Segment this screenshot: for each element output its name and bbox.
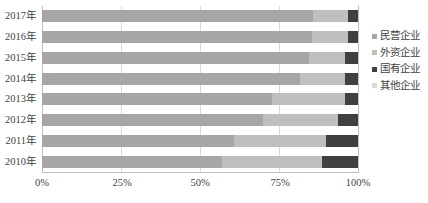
bar-segment[interactable] — [234, 135, 326, 147]
bar-row[interactable]: 2010年 — [42, 156, 358, 168]
bar-segment[interactable] — [42, 114, 263, 126]
bar-segment[interactable] — [263, 114, 338, 126]
bar-row[interactable]: 2012年 — [42, 114, 358, 126]
bar-segment[interactable] — [272, 93, 345, 105]
bar-segment[interactable] — [42, 10, 313, 22]
x-tick-label-0: 0% — [20, 176, 64, 189]
bar-segment[interactable] — [345, 52, 358, 64]
bar-segment[interactable] — [222, 156, 322, 168]
y-tick-label: 2016年 — [0, 31, 36, 43]
legend-swatch-icon-0 — [372, 34, 377, 39]
bar-segment[interactable] — [42, 52, 309, 64]
bar-segment[interactable] — [42, 93, 272, 105]
legend-item-0[interactable]: 民营企业 — [372, 30, 420, 42]
bar-segment[interactable] — [326, 135, 358, 147]
legend-item-3[interactable]: 其他企业 — [372, 80, 420, 92]
y-tick-label: 2014年 — [0, 73, 36, 85]
legend-label-2: 国有企业 — [380, 63, 420, 75]
y-tick-label: 2012年 — [0, 114, 36, 126]
y-tick-label: 2010年 — [0, 156, 36, 168]
y-tick-label: 2017年 — [0, 10, 36, 22]
bar-segment[interactable] — [345, 73, 358, 85]
bar-row[interactable]: 2011年 — [42, 135, 358, 147]
legend-swatch-icon-3 — [372, 83, 377, 88]
bar-segment[interactable] — [42, 156, 222, 168]
chart-legend: 民营企业 外资企业 国有企业 其他企业 — [372, 30, 420, 92]
legend-swatch-icon-2 — [372, 67, 377, 72]
x-axis-line — [42, 172, 359, 173]
legend-swatch-icon-1 — [372, 50, 377, 55]
bar-segment[interactable] — [42, 31, 312, 43]
y-tick-label: 2015年 — [0, 52, 36, 64]
bar-row[interactable]: 2017年 — [42, 10, 358, 22]
plot-area: 2010年2011年2012年2013年2014年2015年2016年2017年 — [42, 6, 358, 172]
legend-item-1[interactable]: 外资企业 — [372, 47, 420, 59]
x-tick-label-25: 25% — [100, 176, 144, 189]
bar-segment[interactable] — [42, 135, 234, 147]
legend-label-1: 外资企业 — [380, 47, 420, 59]
bar-row[interactable]: 2016年 — [42, 31, 358, 43]
bar-segment[interactable] — [42, 73, 300, 85]
y-tick-label: 2011年 — [0, 135, 36, 147]
bar-segment[interactable] — [348, 10, 358, 22]
bar-segment[interactable] — [313, 10, 348, 22]
bar-segment[interactable] — [348, 31, 358, 43]
x-tick-label-75: 75% — [258, 176, 302, 189]
legend-label-3: 其他企业 — [380, 80, 420, 92]
legend-item-2[interactable]: 国有企业 — [372, 63, 420, 75]
bar-segment[interactable] — [300, 73, 345, 85]
bar-row[interactable]: 2015年 — [42, 52, 358, 64]
bar-row[interactable]: 2013年 — [42, 93, 358, 105]
bar-segment[interactable] — [322, 156, 358, 168]
x-tick-label-100: 100% — [336, 176, 380, 189]
bar-segment[interactable] — [345, 93, 358, 105]
y-tick-label: 2013年 — [0, 93, 36, 105]
legend-label-0: 民营企业 — [380, 30, 420, 42]
gridline-100 — [358, 6, 359, 172]
bar-segment[interactable] — [309, 52, 345, 64]
bar-segment[interactable] — [312, 31, 348, 43]
bar-segment[interactable] — [338, 114, 358, 126]
bar-row[interactable]: 2014年 — [42, 73, 358, 85]
x-tick-label-50: 50% — [178, 176, 222, 189]
stacked-bar-chart: 2010年2011年2012年2013年2014年2015年2016年2017年… — [0, 0, 428, 203]
